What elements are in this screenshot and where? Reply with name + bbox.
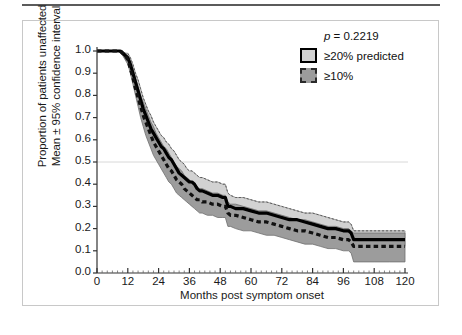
chart-legend: p = 0.2219 ≥20% predicted ≥10% (300, 30, 440, 88)
y-tick-label-0.2: 0.2 (65, 221, 91, 233)
legend-p-value: p = 0.2219 (324, 30, 440, 42)
y-tick-label-0.4: 0.4 (65, 176, 91, 188)
y-tick-label-0.7: 0.7 (65, 110, 91, 122)
y-axis-label-line1: Proportion of patients unaffected (35, 0, 49, 201)
legend-item-20pct[interactable]: ≥20% predicted (300, 48, 440, 63)
y-tick-label-1.0: 1.0 (65, 43, 91, 55)
legend-label-20pct: ≥20% predicted (324, 50, 404, 62)
legend-swatch-20pct-icon (300, 48, 317, 63)
figure-container: Proportion of patients unaffected Mean ±… (0, 0, 462, 335)
y-tick-label-0.9: 0.9 (65, 65, 91, 77)
y-tick-label-0.8: 0.8 (65, 87, 91, 99)
y-axis-label: Proportion of patients unaffected Mean ±… (35, 0, 63, 201)
legend-p-number: = 0.2219 (330, 30, 378, 42)
x-tick-label-120: 120 (385, 275, 425, 287)
legend-label-10pct: ≥10% (324, 70, 353, 82)
y-tick-label-0.3: 0.3 (65, 198, 91, 210)
legend-swatch-10pct-icon (300, 68, 317, 83)
y-axis-label-line2: Mean ± 95% confidence interval (49, 0, 63, 201)
legend-item-10pct[interactable]: ≥10% (300, 68, 440, 83)
y-tick-label-0.6: 0.6 (65, 132, 91, 144)
y-tick-label-0.5: 0.5 (65, 154, 91, 166)
y-tick-label-0.1: 0.1 (65, 243, 91, 255)
x-axis-label: Months post symptom onset (97, 289, 407, 301)
